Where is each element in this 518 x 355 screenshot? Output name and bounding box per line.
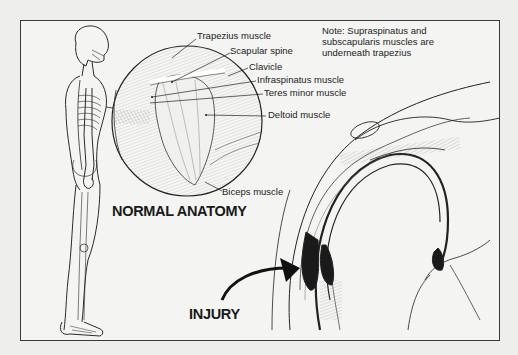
label-scapular-spine: Scapular spine [230, 45, 293, 56]
heading-normal-anatomy: NORMAL ANATOMY [112, 203, 247, 219]
heading-injury: INJURY [189, 306, 240, 322]
injury-arrow-icon [222, 258, 300, 300]
label-infraspinatus: Infraspinatus muscle [257, 74, 344, 85]
label-biceps: Biceps muscle [222, 186, 283, 197]
full-body-figure [60, 26, 113, 336]
label-deltoid: Deltoid muscle [268, 109, 330, 120]
magnified-shoulder [110, 39, 266, 199]
label-trapezius: Trapezius muscle [197, 30, 271, 41]
note-text: Note: Supraspinatus and subscapularis mu… [322, 25, 472, 58]
label-teres-minor: Teres minor muscle [264, 87, 346, 98]
label-clavicle: Clavicle [249, 61, 282, 72]
